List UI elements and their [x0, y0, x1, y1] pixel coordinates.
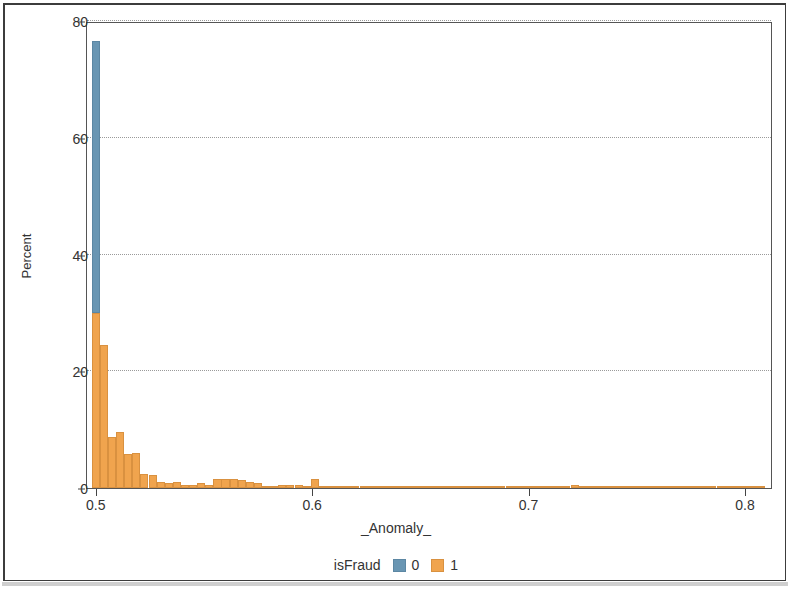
bar-segment-1	[506, 486, 514, 488]
bar-segment-1	[530, 486, 538, 488]
bar-segment-1	[449, 486, 457, 488]
legend-entry-1[interactable]: 1	[431, 557, 458, 573]
gridline-y-80	[87, 20, 771, 21]
bar-segment-1	[473, 486, 481, 488]
histogram-bar	[424, 487, 432, 488]
histogram-bar	[554, 487, 562, 488]
bar-segment-1	[108, 437, 116, 488]
histogram-bar	[579, 486, 587, 488]
histogram-bar	[132, 453, 140, 488]
bar-segment-1	[278, 485, 286, 488]
bar-segment-1	[554, 486, 562, 488]
bar-segment-1	[481, 486, 489, 488]
bar-segment-1	[181, 485, 189, 489]
bar-segment-1	[92, 313, 100, 488]
y-tick-mark-80	[78, 22, 85, 23]
x-tick-mark-0.5	[96, 489, 97, 496]
histogram-bar	[295, 485, 303, 488]
histogram-bar	[408, 487, 416, 488]
histogram-bar	[238, 480, 246, 488]
bar-segment-1	[124, 454, 132, 488]
legend: isFraud 0 1	[0, 557, 792, 573]
bar-segment-1	[514, 486, 522, 488]
bar-segment-1	[749, 486, 757, 488]
y-tick-mark-60	[78, 138, 85, 139]
bar-segment-1	[140, 474, 148, 488]
histogram-bar	[286, 485, 294, 489]
histogram-bar	[514, 487, 522, 488]
bar-segment-1	[717, 486, 725, 488]
histogram-bar	[571, 485, 579, 488]
histogram-bar	[262, 486, 270, 488]
bar-segment-1	[741, 486, 749, 488]
bar-segment-1	[571, 485, 579, 488]
histogram-bar	[197, 483, 205, 488]
histogram-bar	[441, 487, 449, 488]
bar-segment-1	[368, 486, 376, 488]
x-tick-mark-0.6	[312, 489, 313, 496]
bar-segment-1	[116, 432, 124, 488]
x-tick-label-0.5: 0.5	[66, 497, 126, 513]
plot-area	[86, 22, 772, 489]
histogram-bar	[473, 487, 481, 488]
bar-segment-1	[457, 486, 465, 488]
histogram-bar	[684, 487, 692, 488]
histogram-bar	[173, 482, 181, 488]
bar-segment-1	[725, 486, 733, 488]
histogram-bar	[497, 487, 505, 488]
histogram-bar	[368, 487, 376, 488]
bar-segment-1	[319, 486, 327, 488]
bar-segment-1	[173, 482, 181, 488]
bar-segment-1	[246, 482, 254, 488]
bar-segment-1	[595, 486, 603, 488]
bar-segment-1	[189, 485, 197, 488]
bar-segment-1	[684, 486, 692, 488]
bar-segment-1	[343, 486, 351, 488]
bar-segment-1	[619, 486, 627, 488]
bar-segment-1	[733, 486, 741, 488]
bar-segment-1	[562, 486, 570, 488]
bar-segment-1	[416, 486, 424, 488]
histogram-bar	[149, 475, 157, 488]
histogram-bar	[392, 487, 400, 488]
histogram-bar	[157, 482, 165, 488]
histogram-bar	[213, 479, 221, 488]
x-axis-title: _Anomaly_	[0, 520, 792, 536]
bar-segment-1	[546, 486, 554, 488]
histogram-bar	[465, 487, 473, 488]
x-tick-mark-0.7	[529, 489, 530, 496]
histogram-bar	[432, 486, 440, 488]
bar-segment-1	[165, 483, 173, 488]
bar-segment-1	[360, 486, 368, 488]
bar-segment-1	[392, 486, 400, 488]
histogram-bar	[627, 486, 635, 488]
histogram-bar	[165, 483, 173, 488]
histogram-bar	[384, 487, 392, 488]
legend-label-0: 0	[412, 557, 420, 573]
bar-segment-1	[238, 480, 246, 488]
bar-segment-1	[676, 486, 684, 488]
y-tick-mark-20	[78, 372, 85, 373]
histogram-bar	[376, 487, 384, 488]
bar-segment-1	[213, 479, 221, 488]
bar-segment-1	[197, 483, 205, 488]
histogram-bar	[700, 486, 708, 488]
histogram-bar	[603, 487, 611, 488]
bar-segment-1	[327, 486, 335, 488]
histogram-bar	[360, 487, 368, 488]
histogram-bar	[449, 487, 457, 488]
histogram-bar	[506, 487, 514, 488]
bar-segment-1	[424, 486, 432, 488]
bar-segment-1	[100, 345, 108, 488]
legend-title: isFraud	[334, 557, 381, 573]
histogram-bar	[189, 485, 197, 488]
histogram-bar	[116, 432, 124, 488]
bar-segment-1	[335, 486, 343, 488]
histogram-figure: 020406080 0.50.60.70.8 Percent _Anomaly_…	[0, 0, 792, 591]
histogram-bar	[205, 485, 213, 488]
histogram-bar	[635, 487, 643, 488]
histogram-bar	[278, 485, 286, 488]
bar-segment-1	[351, 486, 359, 488]
x-tick-mark-0.8	[745, 489, 746, 496]
legend-entry-0[interactable]: 0	[393, 557, 420, 573]
